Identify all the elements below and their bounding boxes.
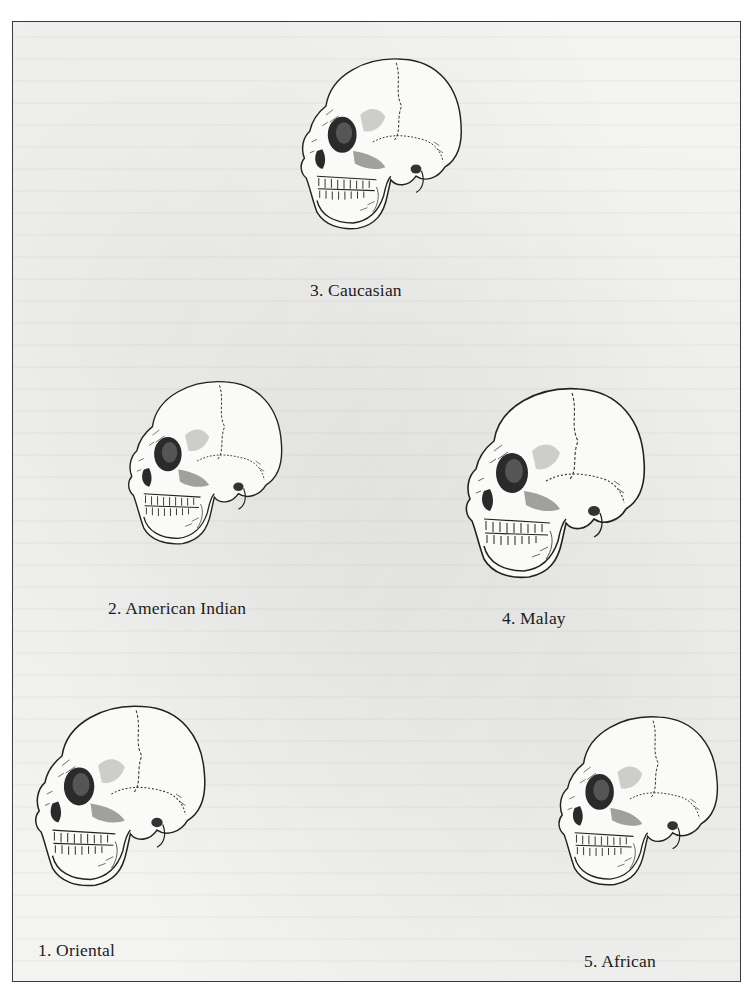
skull-illustration-oriental xyxy=(24,688,214,900)
skull-illustration-caucasian xyxy=(290,44,470,240)
caption-american-indian: 2. American Indian xyxy=(108,598,246,619)
caption-oriental: 1. Oriental xyxy=(38,940,115,961)
skull-illustration-african xyxy=(548,688,726,910)
skull-illustration-american-indian xyxy=(118,360,290,562)
caption-caucasian: 3. Caucasian xyxy=(310,280,402,301)
caption-malay: 4. Malay xyxy=(502,608,566,629)
caption-african: 5. African xyxy=(584,951,656,972)
skull-illustration-malay xyxy=(454,376,654,586)
